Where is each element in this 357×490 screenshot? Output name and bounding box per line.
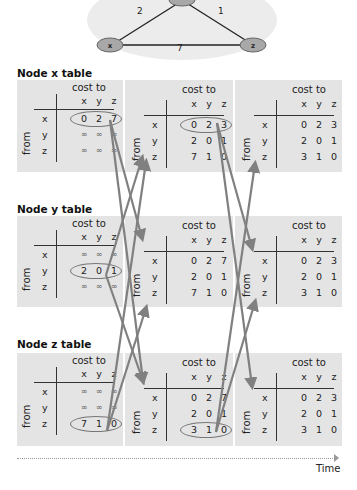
arrow-y1-to-z2 — [106, 275, 143, 381]
arrow-z2-to-x3 — [216, 164, 255, 432]
time-label: Time — [316, 463, 340, 474]
arrow-x2-to-z3 — [217, 123, 252, 386]
time-arrow-icon — [334, 454, 339, 462]
arrow-x1-to-z2 — [110, 120, 143, 381]
time-axis — [17, 458, 337, 459]
arrows-overlay — [0, 0, 357, 490]
arrow-x2-to-y3 — [217, 123, 252, 248]
